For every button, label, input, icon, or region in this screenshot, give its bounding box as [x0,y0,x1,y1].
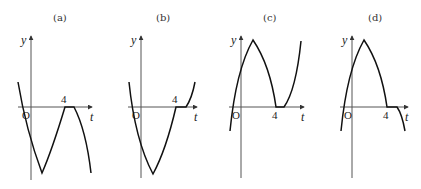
t-axis-label: t [301,110,305,124]
panel-a: (a) y t O 4 [18,12,94,180]
panel-label: (b) [156,12,170,23]
panel-label: (c) [263,12,277,23]
tick-4-label: 4 [383,109,389,121]
t-axis-label: t [194,110,198,124]
y-axis-label: y [341,33,348,47]
panel-label: (a) [53,12,67,23]
panel-b: (b) y t O 4 [128,12,198,178]
y-axis-label: y [20,33,27,47]
panel-c: (c) y t O 4 [229,12,305,178]
tick-4-label: 4 [272,109,278,121]
tick-4-label: 4 [172,93,178,105]
graph-options-figure: (a) y t O 4 (b) y t O 4 (c) y t O 4 (d) … [0,0,421,189]
y-axis-label: y [230,33,237,47]
tick-4-label: 4 [61,93,67,105]
panel-label: (d) [368,12,382,23]
t-axis-label: t [90,110,94,124]
panel-d: (d) y t O 4 [340,12,409,178]
origin-label: O [344,109,352,121]
t-axis-label: t [405,110,409,124]
y-axis-label: y [130,33,137,47]
origin-label: O [232,109,240,121]
graph-curve [129,82,195,174]
graph-curve [18,82,91,173]
